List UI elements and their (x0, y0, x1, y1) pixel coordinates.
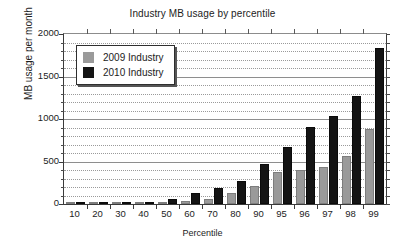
bar-2010-p96 (306, 127, 316, 204)
legend-label-2009: 2009 Industry (103, 52, 164, 63)
y-tick-minor-left (61, 94, 64, 95)
chart-title: Industry MB usage by percentile (0, 8, 405, 19)
y-tick-minor-left (61, 187, 64, 188)
y-tick-minor-left (61, 145, 64, 146)
x-tick-top (87, 29, 88, 34)
bar-2009-p90 (250, 186, 260, 204)
y-tick-minor-right (386, 187, 390, 188)
y-tick-minor-right (386, 111, 390, 112)
y-tick-major (59, 162, 64, 163)
y-tick-minor-right (386, 128, 390, 129)
legend-swatch-icon-2010 (83, 67, 94, 78)
x-axis-label: Percentile (0, 228, 405, 238)
bar-2009-p20 (89, 202, 99, 204)
y-tick-label: 1000 (19, 112, 59, 123)
bar-2009-p97 (319, 167, 329, 204)
bar-2009-p98 (342, 156, 352, 204)
x-tick-top (133, 29, 134, 34)
x-tick-top (317, 29, 318, 34)
y-tick-major (59, 204, 64, 205)
y-tick-minor-left (61, 136, 64, 137)
bar-2009-p50 (158, 202, 168, 204)
bar-2010-p99 (375, 48, 385, 204)
y-tick-label: 0 (19, 197, 59, 208)
y-tick-minor-right (386, 196, 390, 197)
y-tick-minor-left (61, 111, 64, 112)
x-tick-top (225, 29, 226, 34)
x-tick-top (294, 29, 295, 34)
bar-2009-p10 (66, 202, 76, 204)
legend-item-2010: 2010 Industry (83, 65, 164, 80)
x-tick-top (179, 29, 180, 34)
bar-2009-p80 (227, 193, 237, 204)
bar-2010-p80 (237, 181, 247, 204)
gridline-minor (64, 43, 386, 44)
y-tick-minor-left (61, 170, 64, 171)
x-tick-top (271, 29, 272, 34)
y-tick-minor-right (386, 153, 390, 154)
bar-2010-p20 (99, 202, 109, 204)
y-tick-label: 2000 (19, 27, 59, 38)
x-tick-top (202, 29, 203, 34)
x-tick-top (340, 29, 341, 34)
y-tick-minor-right (386, 119, 390, 120)
y-tick-minor-right (386, 204, 390, 205)
bar-2010-p70 (214, 188, 224, 204)
bar-2010-p10 (76, 202, 86, 204)
bar-2010-p90 (260, 164, 270, 204)
bar-2010-p98 (352, 96, 362, 204)
y-tick-minor-right (386, 77, 390, 78)
bar-2009-p96 (296, 170, 306, 204)
legend-label-2010: 2010 Industry (103, 67, 164, 78)
bar-2010-p30 (122, 202, 132, 204)
y-tick-minor-right (386, 102, 390, 103)
y-tick-minor-right (386, 162, 390, 163)
y-tick-minor-right (386, 43, 390, 44)
bar-2009-p99 (365, 129, 375, 204)
gridline-minor (64, 85, 386, 86)
y-tick-minor-left (61, 51, 64, 52)
y-tick-major (59, 34, 64, 35)
y-tick-minor-right (386, 34, 390, 35)
y-tick-minor-right (386, 170, 390, 171)
x-tick-top (156, 29, 157, 34)
bar-2010-p50 (168, 199, 178, 204)
gridline-minor (64, 94, 386, 95)
x-tick-label: 99 (361, 208, 387, 219)
y-tick-major (59, 77, 64, 78)
chart-figure: Industry MB usage by percentile MB usage… (0, 0, 405, 245)
y-tick-minor-right (386, 94, 390, 95)
y-tick-minor-left (61, 68, 64, 69)
y-tick-minor-left (61, 102, 64, 103)
legend-swatch-icon-2009 (83, 52, 94, 63)
chart-legend: 2009 Industry 2010 Industry (76, 45, 175, 85)
y-tick-minor-left (61, 196, 64, 197)
y-tick-minor-right (386, 51, 390, 52)
y-tick-minor-right (386, 85, 390, 86)
y-tick-minor-right (386, 60, 390, 61)
x-tick-top (248, 29, 249, 34)
gridline-minor (64, 102, 386, 103)
y-tick-minor-left (61, 179, 64, 180)
y-tick-label: 1500 (19, 70, 59, 81)
y-tick-minor-right (386, 179, 390, 180)
y-tick-minor-right (386, 68, 390, 69)
bar-2010-p60 (191, 193, 201, 204)
y-tick-label: 500 (19, 155, 59, 166)
y-tick-minor-right (386, 145, 390, 146)
x-tick-top (363, 29, 364, 34)
y-tick-major (59, 119, 64, 120)
y-tick-minor-left (61, 85, 64, 86)
y-tick-minor-right (386, 136, 390, 137)
bar-2010-p40 (145, 202, 155, 204)
y-tick-minor-left (61, 128, 64, 129)
bar-2009-p60 (181, 201, 191, 204)
y-tick-minor-left (61, 153, 64, 154)
bar-2009-p40 (135, 202, 145, 204)
bar-2009-p95 (273, 172, 283, 204)
legend-item-2009: 2009 Industry (83, 50, 164, 65)
y-tick-minor-left (61, 60, 64, 61)
y-tick-minor-left (61, 43, 64, 44)
bar-2009-p70 (204, 199, 214, 204)
gridline-minor (64, 111, 386, 112)
